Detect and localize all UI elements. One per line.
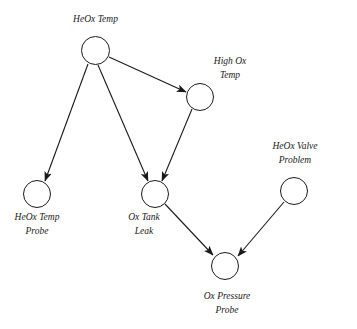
node-heox-valve-problem[interactable] xyxy=(280,177,308,205)
diagram-canvas: HeOx Temp High Ox Temp HeOx Temp Probe O… xyxy=(0,0,357,329)
node-label-ox-pressure-probe: Ox Pressure Probe xyxy=(177,290,277,317)
edge-high-ox-temp-to-ox-tank-leak xyxy=(162,109,192,181)
node-label-heox-temp-probe: HeOx Temp Probe xyxy=(0,211,87,238)
edge-heox-temp-to-ox-tank-leak xyxy=(98,65,148,181)
node-label-line: Leak xyxy=(96,225,192,239)
node-heox-temp[interactable] xyxy=(81,36,110,65)
node-label-heox-valve-problem: HeOx Valve Problem xyxy=(245,140,345,167)
node-label-line: Ox Tank xyxy=(96,211,192,225)
node-label-line: HeOx Valve xyxy=(245,140,345,154)
node-label-line: Probe xyxy=(177,304,277,318)
node-label-ox-tank-leak: Ox Tank Leak xyxy=(96,211,192,238)
node-label-line: HeOx Temp xyxy=(45,13,146,27)
edge-heox-temp-to-high-ox-temp xyxy=(109,57,186,92)
node-label-heox-temp: HeOx Temp xyxy=(45,13,146,27)
node-ox-pressure-probe[interactable] xyxy=(211,252,239,280)
node-label-line: Temp xyxy=(182,69,278,83)
node-label-line: HeOx Temp xyxy=(0,211,87,225)
node-label-line: High Ox xyxy=(182,55,278,69)
node-label-line: Problem xyxy=(245,154,345,168)
node-ox-tank-leak[interactable] xyxy=(141,180,169,208)
node-label-line: Probe xyxy=(0,225,87,239)
edge-heox-temp-to-heox-temp-probe xyxy=(45,64,88,181)
node-label-line: Ox Pressure xyxy=(177,290,277,304)
edge-heox-valve-problem-to-ox-pressure-probe xyxy=(238,202,284,256)
node-high-ox-temp[interactable] xyxy=(186,83,214,111)
node-heox-temp-probe[interactable] xyxy=(23,180,51,208)
node-label-high-ox-temp: High Ox Temp xyxy=(182,55,278,82)
